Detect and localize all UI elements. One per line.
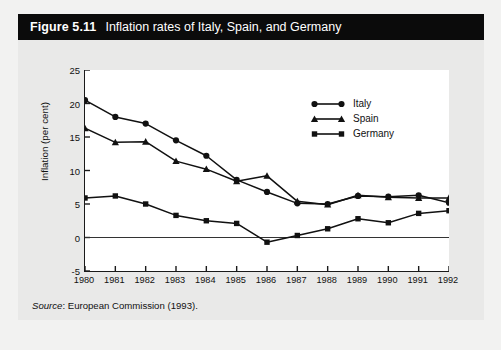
- y-tick-20: 20: [69, 98, 80, 109]
- data-point-marker: [311, 100, 317, 106]
- data-point-marker: [143, 121, 149, 127]
- data-point-marker: [173, 137, 179, 143]
- legend-label: Germany: [353, 128, 394, 139]
- data-point-marker: [263, 172, 270, 179]
- legend-label: Spain: [353, 113, 379, 124]
- plot-container: Inflation (per cent) -50510152025 198019…: [18, 40, 484, 295]
- data-point-marker: [143, 201, 148, 206]
- x-tick-1990: 1990: [377, 275, 397, 285]
- x-tick-1981: 1981: [104, 275, 124, 285]
- page-background: Figure 5.11 Inflation rates of Italy, Sp…: [0, 0, 501, 350]
- series-line-germany: [85, 196, 449, 242]
- figure-title-bar: Figure 5.11 Inflation rates of Italy, Sp…: [18, 14, 484, 40]
- data-point-marker: [339, 131, 344, 136]
- y-tick-15: 15: [69, 132, 80, 143]
- y-tick-5: 5: [75, 199, 80, 210]
- data-point-marker: [338, 100, 344, 106]
- data-point-marker: [173, 213, 178, 218]
- legend-item-italy[interactable]: Italy: [310, 96, 420, 111]
- figure-title: Inflation rates of Italy, Spain, and Ger…: [105, 20, 341, 34]
- chart-legend: ItalySpainGermany: [310, 96, 420, 141]
- legend-item-spain[interactable]: Spain: [310, 111, 420, 126]
- data-point-marker: [172, 158, 179, 165]
- data-point-marker: [295, 233, 300, 238]
- x-tick-1982: 1982: [134, 275, 154, 285]
- legend-swatch-circle-icon: [310, 98, 346, 110]
- figure-number: Figure 5.11: [30, 20, 96, 34]
- x-tick-1989: 1989: [347, 275, 367, 285]
- data-point-marker: [416, 211, 421, 216]
- x-axis-tick-labels: 1980198119821983198419851986198719881989…: [84, 275, 450, 291]
- data-point-marker: [85, 125, 89, 132]
- data-point-marker: [203, 153, 209, 159]
- data-point-marker: [264, 189, 270, 195]
- x-tick-1986: 1986: [256, 275, 276, 285]
- data-point-marker: [325, 226, 330, 231]
- legend-swatch-triangle-icon: [310, 113, 346, 125]
- data-point-marker: [113, 193, 118, 198]
- legend-label: Italy: [353, 98, 371, 109]
- legend-item-germany[interactable]: Germany: [310, 126, 420, 141]
- x-tick-1983: 1983: [165, 275, 185, 285]
- x-tick-1984: 1984: [195, 275, 215, 285]
- y-axis-title: Inflation (per cent): [39, 72, 50, 212]
- x-tick-1992: 1992: [438, 275, 458, 285]
- data-point-marker: [112, 114, 118, 120]
- data-point-marker: [386, 220, 391, 225]
- x-tick-1988: 1988: [316, 275, 336, 285]
- x-tick-1987: 1987: [286, 275, 306, 285]
- data-point-marker: [446, 208, 449, 213]
- data-point-marker: [264, 239, 269, 244]
- data-point-marker: [312, 131, 317, 136]
- source-text: : European Commission (1993).: [62, 300, 197, 311]
- x-tick-1985: 1985: [225, 275, 245, 285]
- y-tick-25: 25: [69, 65, 80, 76]
- x-tick-1980: 1980: [74, 275, 94, 285]
- figure-card: Figure 5.11 Inflation rates of Italy, Sp…: [18, 14, 484, 320]
- y-tick-10: 10: [69, 165, 80, 176]
- source-note: Source: European Commission (1993).: [32, 300, 198, 311]
- data-point-marker: [234, 221, 239, 226]
- x-tick-1991: 1991: [407, 275, 427, 285]
- data-point-marker: [355, 216, 360, 221]
- y-tick-0: 0: [75, 232, 80, 243]
- y-axis-tick-labels: -50510152025: [54, 70, 80, 271]
- data-point-marker: [85, 195, 88, 200]
- source-label: Source: [32, 300, 62, 311]
- legend-swatch-square-icon: [310, 128, 346, 140]
- data-point-marker: [204, 218, 209, 223]
